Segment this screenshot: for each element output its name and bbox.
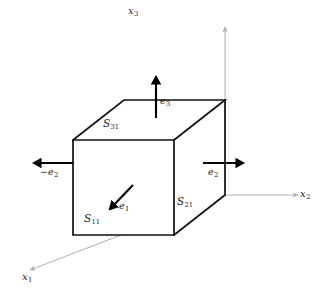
axis-label-x2: x2 bbox=[300, 189, 310, 199]
vector-label-e2: e2 bbox=[208, 167, 218, 177]
vector-label-e1: e1 bbox=[119, 201, 129, 211]
stress-cube-figure: x3 x2 x1 S31 S11 S21 e3 e2 −e2 e1 bbox=[0, 0, 327, 301]
figure-canvas bbox=[0, 0, 327, 301]
vector-label-e3: e3 bbox=[160, 96, 170, 106]
face-label-s31: S31 bbox=[103, 118, 119, 129]
face-label-s21: S21 bbox=[177, 196, 193, 207]
vector-label-minus-e2: −e2 bbox=[40, 167, 58, 177]
axis-label-x1: x1 bbox=[22, 272, 32, 282]
face-label-s11: S11 bbox=[84, 213, 100, 224]
axis-label-x3: x3 bbox=[128, 6, 138, 16]
